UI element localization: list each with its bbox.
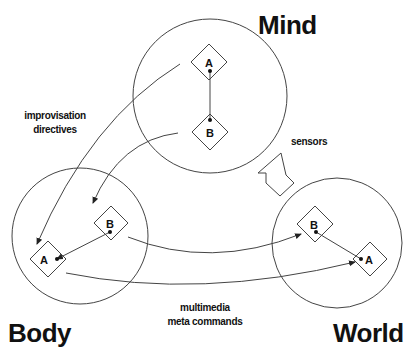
mind-label: Mind	[258, 10, 317, 41]
body-node-a-label: A	[40, 254, 48, 266]
diagram-canvas: A B B A B A Mind Body World improvisatio…	[0, 0, 416, 357]
mind-node-a-label: A	[205, 57, 213, 69]
sensors-arrow-icon	[258, 153, 294, 196]
body-circle	[12, 168, 148, 304]
arrow-body-b-to-world-b	[128, 234, 301, 253]
body-b-dot	[108, 230, 112, 234]
body-link	[57, 232, 110, 259]
arrow-body-a-to-world-a	[66, 262, 355, 284]
arrow-mind-b-to-body-b	[93, 133, 178, 203]
mind-b-dot	[208, 118, 212, 122]
body-node-a	[30, 241, 66, 277]
improvisation-directives-label: improvisation directives	[20, 109, 90, 137]
mind-node-b-label: B	[206, 127, 214, 139]
body-label: Body	[8, 318, 71, 349]
world-link	[316, 232, 361, 259]
world-a-dot	[359, 257, 363, 261]
multimedia-line2: meta commands	[160, 315, 250, 329]
body-a-dot	[55, 257, 59, 261]
body-node-b-label: B	[106, 218, 114, 230]
multimedia-line1: multimedia	[160, 301, 250, 315]
world-node-a-label: A	[365, 254, 373, 266]
improvisation-line2: directives	[20, 123, 90, 137]
multimedia-meta-commands-label: multimedia meta commands	[160, 301, 250, 329]
mind-a-dot	[208, 69, 212, 73]
improvisation-line1: improvisation	[20, 109, 90, 123]
world-circle	[272, 178, 402, 308]
world-node-b-label: B	[310, 219, 318, 231]
sensors-label: sensors	[291, 135, 327, 149]
world-label: World	[333, 318, 404, 349]
